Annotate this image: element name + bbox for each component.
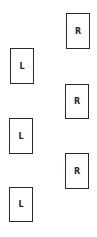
right-step-3: R xyxy=(65,153,89,189)
left-step-2: L xyxy=(9,118,33,154)
right-step-1: R xyxy=(66,13,90,49)
left-step-3: L xyxy=(9,187,33,222)
right-step-2: R xyxy=(65,84,89,119)
left-step-1: L xyxy=(10,48,34,84)
